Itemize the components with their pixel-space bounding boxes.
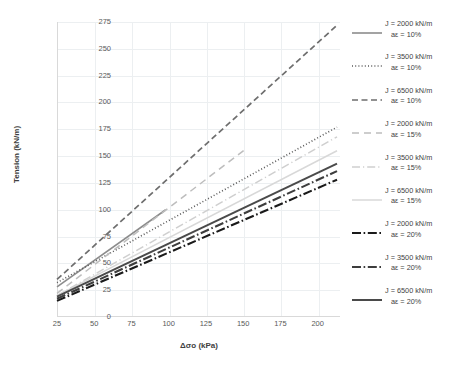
legend-label-primary: J = 6500 kN/m (385, 286, 432, 297)
legend-label-secondary: aε = 20% (391, 230, 421, 241)
x-tick-label: 25 (37, 320, 77, 328)
legend-item[interactable]: J = 6500 kN/maε = 15% (352, 185, 458, 216)
series-line-5 (57, 137, 337, 296)
x-tick-label: 175 (260, 320, 300, 328)
series-line-3 (57, 25, 337, 279)
series-line-6 (57, 151, 337, 296)
legend-label-primary: J = 2000 kN/m (385, 19, 432, 30)
legend-label-primary: J = 3500 kN/m (385, 153, 432, 164)
legend-line-swatch-icon (352, 191, 382, 201)
legend-label-primary: J = 6500 kN/m (385, 86, 432, 97)
legend-item[interactable]: J = 2000 kN/maε = 15% (352, 118, 458, 149)
legend-label-primary: J = 3500 kN/m (385, 253, 432, 264)
x-axis-label: Δσo (kPa) (0, 341, 398, 350)
legend-line-swatch-icon (352, 258, 382, 268)
x-tick-label: 75 (111, 320, 151, 328)
x-tick-label: 125 (186, 320, 226, 328)
legend-line-swatch-icon (352, 57, 382, 67)
x-tick-label: 200 (298, 320, 338, 328)
legend-item[interactable]: J = 2000 kN/maε = 20% (352, 218, 458, 249)
legend-item[interactable]: J = 6500 kN/maε = 10% (352, 85, 458, 116)
legend-label-primary: J = 2000 kN/m (385, 119, 432, 130)
tension-vs-stress-chart: 0255075100125150175200225250275 25507510… (0, 0, 458, 370)
legend-label-primary: J = 3500 kN/m (385, 52, 432, 63)
x-tick-label: 150 (223, 320, 263, 328)
legend-item[interactable]: J = 3500 kN/maε = 15% (352, 152, 458, 183)
series-line-2 (57, 127, 337, 283)
legend-line-swatch-icon (352, 158, 382, 168)
legend-label-secondary: aε = 15% (391, 196, 421, 207)
series-line-9 (57, 164, 337, 297)
legend-label-primary: J = 2000 kN/m (385, 219, 432, 230)
legend-item[interactable]: J = 3500 kN/maε = 20% (352, 252, 458, 283)
x-tick-label: 100 (149, 320, 189, 328)
legend-label-secondary: aε = 15% (391, 163, 421, 174)
legend-item[interactable]: J = 2000 kN/maε = 10% (352, 18, 458, 49)
legend-line-swatch-icon (352, 124, 382, 134)
legend-line-swatch-icon (352, 91, 382, 101)
legend-item[interactable]: J = 6500 kN/maε = 20% (352, 285, 458, 316)
legend-label-secondary: aε = 15% (391, 130, 421, 141)
legend-label-primary: J = 6500 kN/m (385, 186, 432, 197)
legend-item[interactable]: J = 3500 kN/maε = 10% (352, 51, 458, 82)
legend-label-secondary: aε = 10% (391, 30, 421, 41)
legend-label-secondary: aε = 20% (391, 297, 421, 308)
legend-label-secondary: aε = 10% (391, 96, 421, 107)
legend-label-secondary: aε = 10% (391, 63, 421, 74)
legend-line-swatch-icon (352, 24, 382, 34)
chart-legend: J = 2000 kN/maε = 10%J = 3500 kN/maε = 1… (352, 18, 458, 319)
y-axis-label: Tension (kN/m) (12, 95, 21, 215)
x-tick-label: 50 (74, 320, 114, 328)
legend-label-secondary: aε = 20% (391, 263, 421, 274)
legend-line-swatch-icon (352, 224, 382, 234)
series-lines (57, 22, 340, 317)
legend-line-swatch-icon (352, 291, 382, 301)
series-line-8 (57, 171, 337, 299)
